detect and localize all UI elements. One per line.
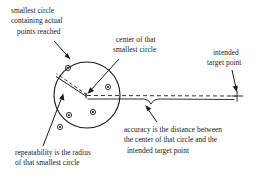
- accuracy-label-line-2: the center of that circle and the: [124, 135, 222, 145]
- point-marker: [90, 109, 95, 114]
- repeatability-label-line-2: of that smallest circle: [15, 158, 91, 168]
- accuracy-label: accuracy is the distance between the cen…: [124, 125, 222, 156]
- smallest-circle-label: smallest circle containing actual points…: [11, 6, 63, 37]
- center-of-circle-label-line-1: center of that: [113, 35, 156, 45]
- leader-arrow-intended-target: [232, 70, 238, 92]
- leader-arrow-repeatability: [43, 94, 64, 147]
- center-of-circle-label-line-2: smallest circle: [113, 45, 156, 55]
- radius-solid-line: [56, 77, 87, 97]
- point-marker: [66, 112, 71, 117]
- smallest-circle-label-line-2: containing actual: [11, 16, 63, 26]
- repeatability-label: repeatability is the radius of that smal…: [15, 148, 91, 169]
- repeatability-label-line-1: repeatability is the radius: [15, 148, 91, 158]
- leader-arrow-smallest-circle: [54, 41, 71, 60]
- accuracy-label-line-1: accuracy is the distance between: [124, 125, 222, 135]
- leader-arrow-accuracy: [145, 105, 157, 122]
- accuracy-brace: [88, 99, 234, 104]
- intended-target-label-line-1: intended: [207, 48, 241, 58]
- intended-target-label-line-2: target point: [207, 58, 241, 68]
- intended-target-point-label: intended target point: [207, 48, 241, 69]
- smallest-circle-label-line-3: points reached: [11, 27, 63, 37]
- point-marker: [65, 65, 70, 70]
- accuracy-dashed-line: [87, 96, 236, 97]
- smallest-circle-label-line-1: smallest circle: [11, 6, 63, 16]
- radius-dashed-line: [57, 74, 88, 96]
- accuracy-label-line-3: intended target point: [124, 146, 222, 156]
- center-of-smallest-circle-label: center of that smallest circle: [113, 35, 156, 56]
- point-marker: [57, 124, 62, 129]
- point-marker: [105, 84, 110, 89]
- diagram-root: smallest circle containing actual points…: [0, 0, 260, 180]
